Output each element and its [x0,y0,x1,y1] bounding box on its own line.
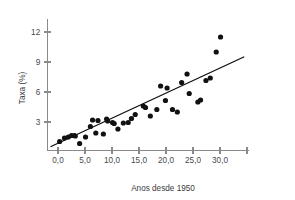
data-point [187,91,192,96]
data-point [77,141,82,146]
x-tick-label: 5,0 [79,156,91,165]
scatter-chart-figure: 0,05,010,015,020,025,030,0 36912 Anos de… [0,0,295,200]
data-point [83,134,88,139]
data-point [154,107,159,112]
data-point [143,105,148,110]
data-point [73,133,78,138]
data-point [163,98,168,103]
data-point [170,107,175,112]
y-axis-title: Taxa (%) [18,72,27,105]
data-point [214,49,219,54]
x-tick-label: 0,0 [52,156,64,165]
y-tick-label: 6 [36,88,41,97]
data-point [184,71,189,76]
y-tick-labels: 36912 [31,28,41,127]
x-axis-title: Anos desde 1950 [131,184,195,193]
y-tick-label: 3 [36,118,41,127]
data-point [198,97,203,102]
data-point [164,85,169,90]
data-point [90,117,95,122]
x-tick-label: 15,0 [131,156,147,165]
data-points [57,34,223,146]
data-point [88,124,93,129]
x-tick-label: 25,0 [185,156,201,165]
chart-canvas: 0,05,010,015,020,025,030,0 36912 Anos de… [0,0,295,200]
trend-line [51,57,244,147]
x-tick-label: 30,0 [212,156,228,165]
x-tick-label: 10,0 [104,156,120,165]
data-point [133,112,138,117]
data-point [95,118,100,123]
y-tick-label: 9 [36,58,41,67]
data-point [158,83,163,88]
data-point [126,120,131,125]
x-tick-label: 20,0 [158,156,174,165]
data-point [175,109,180,114]
data-point [115,126,120,131]
y-tick-label: 12 [31,28,41,37]
data-point [121,120,126,125]
data-point [208,75,213,80]
data-point [112,121,117,126]
data-point [93,130,98,135]
data-point [179,80,184,85]
data-point [105,118,110,123]
data-point [148,113,153,118]
x-tick-labels: 0,05,010,015,020,025,030,0 [52,156,228,165]
data-point [101,131,106,136]
data-point [218,34,223,39]
data-point [57,139,62,144]
data-point [129,116,134,121]
